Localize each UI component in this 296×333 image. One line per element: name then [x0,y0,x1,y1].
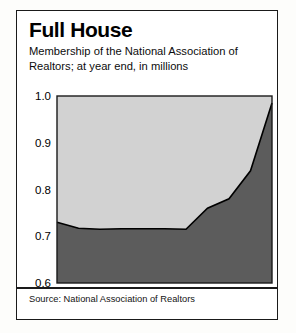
y-axis-tick: 0.7 [35,230,51,242]
source-note: Source: National Association of Realtors [29,294,195,304]
chart-panel: Full House Membership of the National As… [16,10,278,320]
y-axis-tick: 0.9 [35,137,51,149]
y-axis-tick: 0.8 [35,184,51,196]
page-title: Full House [29,19,132,40]
chart-subtitle: Membership of the National Association o… [29,44,267,73]
source-divider [17,287,277,289]
area-chart: 0.60.70.80.91.0 1993'94'95'96'97'98'99'0… [17,73,276,288]
chart-canvas: 0.60.70.80.91.0 1993'94'95'96'97'98'99'0… [17,73,276,288]
chart-figure: Full House Membership of the National As… [0,0,296,333]
y-axis-tick-labels: 0.60.70.80.91.0 [35,90,51,288]
y-axis-tick: 1.0 [35,90,51,102]
